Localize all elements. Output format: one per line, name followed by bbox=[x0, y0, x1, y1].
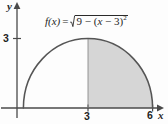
shaded-area-region bbox=[88, 39, 153, 109]
radicand-lead-term: 9 bbox=[76, 15, 82, 27]
formula-lhs: f(x) bbox=[45, 15, 60, 27]
square-root-group: 9 − (x − 3)2 bbox=[70, 15, 127, 27]
y-tick-label-3: 3 bbox=[3, 33, 9, 44]
radical-sign-icon bbox=[70, 15, 75, 27]
inner-minus-sign: − bbox=[105, 15, 111, 27]
x-tick-label-6: 6 bbox=[147, 110, 153, 121]
x-tick-label-3: 3 bbox=[84, 111, 90, 122]
inner-variable: x bbox=[97, 15, 102, 27]
figure-semicircle-plot: y x 3 3 6 f(x)= 9 − (x − 3)2 bbox=[0, 0, 168, 124]
radicand-minus-sign: − bbox=[85, 15, 91, 27]
x-axis-label: x bbox=[158, 110, 164, 121]
function-formula-annotation: f(x)= 9 − (x − 3)2 bbox=[45, 15, 128, 27]
exponent-two: 2 bbox=[123, 14, 127, 22]
y-axis-label: y bbox=[7, 1, 12, 12]
radicand-expression: 9 − (x − 3)2 bbox=[75, 15, 127, 27]
formula-equals-sign: = bbox=[62, 15, 68, 27]
y-axis-arrowhead bbox=[14, 2, 21, 9]
